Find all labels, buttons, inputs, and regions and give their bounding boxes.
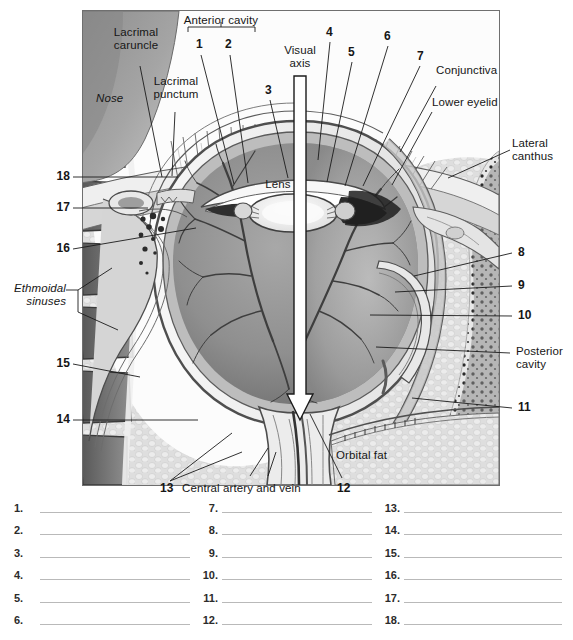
answer-row: 9. [196, 543, 378, 565]
label-lacrimal-punctum: Lacrimal punctum [140, 75, 212, 100]
label-number-10: 10 [518, 309, 532, 322]
answer-row: 14. [378, 520, 568, 542]
label-number-7: 7 [417, 50, 424, 63]
label-number-12: 12 [337, 482, 351, 495]
label-number-18: 18 [40, 170, 70, 183]
label-number-15: 15 [40, 357, 70, 370]
answer-number: 1. [14, 502, 23, 514]
label-number-4: 4 [326, 26, 333, 39]
answer-number: 17. [378, 592, 400, 604]
label-number-1: 1 [196, 38, 203, 51]
answer-blank-line[interactable] [222, 602, 372, 603]
answer-row: 1. [14, 498, 196, 520]
label-lower-eyelid: Lower eyelid [432, 96, 498, 109]
answer-number: 4. [14, 569, 23, 581]
label-number-6: 6 [384, 30, 391, 43]
answer-blank-line[interactable] [404, 534, 562, 535]
answer-blank-line[interactable] [40, 512, 190, 513]
answer-number: 3. [14, 547, 23, 559]
answer-row: 11. [196, 588, 378, 610]
answer-number: 10. [196, 569, 218, 581]
answer-number: 5. [14, 592, 23, 604]
answer-number: 6. [14, 614, 23, 626]
label-number-13: 13 [160, 482, 174, 495]
answer-blank-line[interactable] [222, 624, 372, 625]
answer-number: 8. [196, 524, 218, 536]
answer-blank-line[interactable] [404, 602, 562, 603]
answer-row: 4. [14, 565, 196, 587]
answer-number: 11. [196, 592, 218, 604]
label-number-8: 8 [518, 246, 525, 259]
answer-blank-line[interactable] [40, 534, 190, 535]
answer-blank-line[interactable] [40, 602, 190, 603]
answer-number: 9. [196, 547, 218, 559]
answer-number: 2. [14, 524, 23, 536]
answer-row: 17. [378, 588, 568, 610]
label-lens: Lens [258, 178, 298, 191]
label-number-17: 17 [40, 201, 70, 214]
label-orbital-fat: Orbital fat [336, 449, 387, 462]
answer-column-2: 7. 8. 9. 10. 11. 12. [196, 498, 378, 632]
label-number-5: 5 [348, 46, 355, 59]
answer-blank-line[interactable] [40, 624, 190, 625]
answer-blank-line[interactable] [222, 579, 372, 580]
answer-blanks-section: 1. 2. 3. 4. 5. 6. 7. 8. [0, 498, 573, 640]
label-ethmoidal-sinuses: Ethmoidal sinuses [0, 282, 66, 307]
label-conjunctiva: Conjunctiva [436, 64, 497, 77]
answer-number: 15. [378, 547, 400, 559]
label-central-artery-and-vein: Central artery and vein [182, 482, 301, 495]
answer-row: 12. [196, 610, 378, 632]
label-visual-axis: Visual axis [278, 44, 322, 69]
answer-row: 16. [378, 565, 568, 587]
label-number-14: 14 [40, 413, 70, 426]
label-number-3: 3 [265, 84, 272, 97]
answer-number: 14. [378, 524, 400, 536]
answer-row: 6. [14, 610, 196, 632]
label-number-16: 16 [40, 242, 70, 255]
answer-row: 7. [196, 498, 378, 520]
label-number-2: 2 [225, 38, 232, 51]
answer-blank-line[interactable] [404, 579, 562, 580]
answer-number: 7. [196, 502, 218, 514]
answer-number: 12. [196, 614, 218, 626]
answer-blank-line[interactable] [222, 534, 372, 535]
answer-blank-line[interactable] [40, 557, 190, 558]
label-posterior-cavity: Posterior cavity [516, 345, 563, 370]
answer-number: 13. [378, 502, 400, 514]
answer-column-1: 1. 2. 3. 4. 5. 6. [14, 498, 196, 632]
answer-blank-line[interactable] [404, 624, 562, 625]
answer-row: 15. [378, 543, 568, 565]
label-number-9: 9 [518, 279, 525, 292]
label-number-11: 11 [518, 401, 531, 414]
answer-number: 18. [378, 614, 400, 626]
label-lateral-canthus: Lateral canthus [512, 137, 553, 162]
label-nose: Nose [96, 92, 123, 105]
answer-blank-line[interactable] [222, 557, 372, 558]
label-anterior-cavity: Anterior cavity [163, 14, 279, 27]
answer-blank-line[interactable] [404, 557, 562, 558]
answer-row: 3. [14, 543, 196, 565]
answer-row: 5. [14, 588, 196, 610]
answer-row: 8. [196, 520, 378, 542]
answer-blank-line[interactable] [222, 512, 372, 513]
answer-row: 18. [378, 610, 568, 632]
answer-row: 10. [196, 565, 378, 587]
answer-row: 13. [378, 498, 568, 520]
answer-blank-line[interactable] [404, 512, 562, 513]
answer-column-3: 13. 14. 15. 16. 17. 18. [378, 498, 568, 632]
answer-blank-line[interactable] [40, 579, 190, 580]
answer-row: 2. [14, 520, 196, 542]
label-lacrimal-caruncle: Lacrimal caruncle [101, 26, 171, 51]
answer-number: 16. [378, 569, 400, 581]
